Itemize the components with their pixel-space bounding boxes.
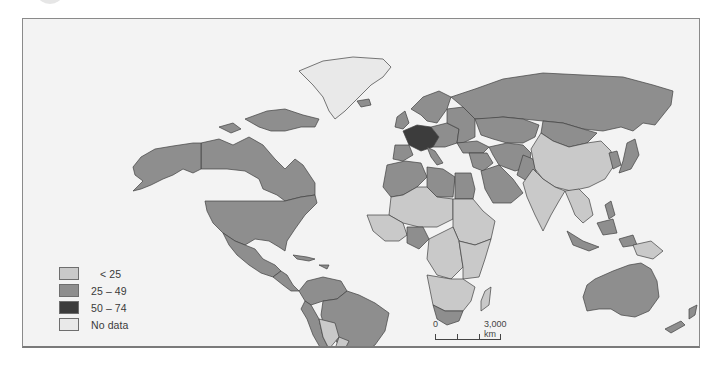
legend-item-25-49: 25 – 49	[59, 282, 128, 299]
map-legend: < 25 25 – 49 50 – 74 No data	[59, 265, 128, 333]
region-alaska	[133, 143, 201, 191]
region-iberia	[393, 145, 413, 161]
region-papua-new-guinea	[633, 241, 663, 259]
map-frame: < 25 25 – 49 50 – 74 No data 0 3,000 km	[22, 18, 700, 348]
region-indonesia	[567, 219, 637, 251]
region-japan	[619, 139, 639, 173]
scale-tick	[435, 334, 436, 339]
region-usa	[205, 195, 317, 251]
legend-label: 25 – 49	[91, 285, 127, 297]
region-kazakhstan-central-asia	[475, 117, 539, 143]
region-madagascar	[481, 287, 491, 311]
region-italy	[427, 147, 443, 165]
scale-bar: 0 3,000 km	[427, 319, 517, 348]
region-southeast-asia	[565, 189, 593, 223]
region-nigeria	[407, 227, 429, 249]
scale-zero-label: 0	[433, 319, 438, 329]
region-turkey	[457, 141, 489, 153]
region-new-zealand	[665, 305, 697, 333]
region-caribbean	[293, 255, 329, 269]
region-egypt	[455, 173, 475, 199]
legend-item-lt25: < 25	[59, 265, 128, 282]
region-east-africa	[459, 239, 491, 279]
region-philippines	[605, 201, 615, 219]
scale-tick	[479, 334, 480, 339]
region-canadian-arctic-islands	[219, 109, 319, 133]
legend-swatch	[59, 318, 79, 331]
region-greenland	[299, 57, 391, 119]
scale-tick	[457, 334, 458, 339]
legend-label: < 25	[91, 268, 121, 280]
region-sudan-ethiopia	[453, 199, 495, 245]
corner-decoration	[38, 0, 62, 4]
region-scandinavia	[411, 91, 451, 123]
scale-line	[435, 335, 501, 340]
legend-swatch	[59, 301, 79, 314]
region-uk-ireland	[395, 111, 409, 129]
region-australia	[583, 263, 659, 317]
legend-swatch	[59, 267, 79, 280]
legend-item-50-74: 50 – 74	[59, 299, 128, 316]
region-central-america	[273, 271, 299, 291]
legend-swatch	[59, 284, 79, 297]
region-canada	[201, 137, 315, 201]
scale-tick	[500, 334, 501, 339]
legend-label: 50 – 74	[91, 302, 127, 314]
region-iceland	[357, 99, 371, 107]
legend-label: No data	[91, 319, 128, 331]
legend-item-no-data: No data	[59, 316, 128, 333]
